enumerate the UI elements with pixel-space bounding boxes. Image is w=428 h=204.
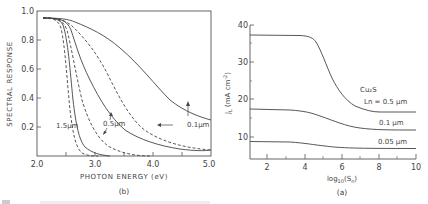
x-axis-label-a: log10(Sn) — [327, 175, 357, 184]
label-1.5um: 1.5µm — [56, 122, 79, 130]
y-tick-label: 30 — [238, 58, 248, 67]
caption-fragment — [2, 200, 10, 204]
x-tick-label: 8 — [376, 163, 381, 172]
caption-fragment-line — [40, 201, 210, 204]
panel-a: 40 30 20 10 JL (mA cm-2) 2 4 6 8 10 log1… — [222, 21, 421, 197]
y-tick-label: 0.6 — [21, 65, 34, 74]
y-tick-label: 40 — [238, 21, 248, 30]
figure: 1.0 0.8 0.6 0.4 0.2 SPECTRAL RESPONSE 2.… — [0, 0, 428, 204]
plot-frame-b — [37, 11, 211, 156]
curve-0.5um-solid — [43, 18, 211, 151]
panel-b: 1.0 0.8 0.6 0.4 0.2 SPECTRAL RESPONSE 2.… — [6, 7, 215, 196]
curve-0.1um-dashed — [43, 18, 211, 150]
panel-caption-a: (a) — [337, 188, 348, 197]
label-ln-0.1um: 0.1 µm — [379, 119, 404, 127]
label-ln-0.5um: Ln = 0.5 µm — [364, 98, 407, 106]
x-tick-label: 2 — [264, 163, 269, 172]
y-axis-a: 40 30 20 10 JL (mA cm-2) — [222, 21, 254, 142]
y-tick-label: 10 — [238, 133, 248, 142]
x-axis-label-b: PHOTON ENERGY (eV) — [80, 173, 168, 181]
curves-b — [43, 18, 211, 156]
x-tick-label: 6 — [339, 163, 344, 172]
y-axis-label-a: JL (mA cm-2) — [222, 72, 233, 115]
x-axis-b: 2.0 3.0 4.0 5.0 PHOTON ENERGY (eV) (b) — [31, 152, 216, 196]
y-tick-label: 1.0 — [21, 7, 34, 16]
x-axis-a: 2 4 6 8 10 log10(Sn) (a) — [264, 154, 421, 197]
label-ln-0.05um: 0.05 µm — [378, 138, 407, 146]
y-tick-label: 0.4 — [21, 94, 34, 103]
y-axis-label-b: SPECTRAL RESPONSE — [6, 41, 14, 127]
y-tick-label: 0.8 — [21, 36, 34, 45]
x-tick-label: 5.0 — [203, 160, 216, 169]
label-0.5um: 0.5µm — [103, 120, 126, 128]
y-axis-b: 1.0 0.8 0.6 0.4 0.2 SPECTRAL RESPONSE — [6, 7, 41, 132]
x-tick-label: 2.0 — [31, 160, 44, 169]
curve-1.5um-solid — [43, 18, 110, 156]
panel-caption-b: (b) — [119, 187, 130, 196]
y-tick-label: 20 — [238, 95, 248, 104]
label-material: Cu₂S — [360, 86, 377, 94]
label-0.1um: 0.1µm — [187, 121, 210, 129]
annotations-a: Cu₂S Ln = 0.5 µm 0.1 µm 0.05 µm — [360, 86, 407, 146]
x-tick-label: 4.0 — [147, 160, 160, 169]
curves-a — [250, 35, 416, 149]
x-tick-label: 10 — [411, 163, 421, 172]
x-tick-label: 3.0 — [89, 160, 102, 169]
curve-1.5um-dashed — [43, 18, 98, 156]
y-tick-label: 0.2 — [21, 123, 34, 132]
x-tick-label: 4 — [302, 163, 307, 172]
